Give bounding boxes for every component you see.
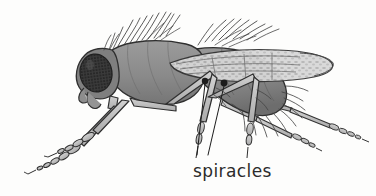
- fly-diagram-svg: spiracles: [0, 0, 376, 196]
- insect-illustration-figure: spiracles: [0, 0, 376, 196]
- spiracle-marker-1: [202, 78, 208, 84]
- eye-highlight: [86, 60, 94, 70]
- spiracle-marker-2: [221, 80, 228, 87]
- spiracles-label: spiracles: [193, 161, 272, 181]
